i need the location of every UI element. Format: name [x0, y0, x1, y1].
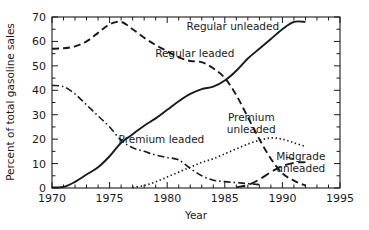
- series-label-line1: Midgrade: [276, 150, 325, 162]
- series-label-premium-unleaded: Premiumunleaded: [227, 111, 276, 135]
- x-axis-title: Year: [184, 209, 208, 221]
- axis-tick-labels: 197019751980198519901995010203040506070: [32, 11, 354, 205]
- x-tick-label: 1985: [211, 192, 239, 205]
- x-tick-label: 1975: [96, 192, 124, 205]
- series-curve-regular-unleaded: [52, 21, 305, 187]
- x-tick-label: 1990: [268, 192, 296, 205]
- series-curve-regular-leaded: [52, 22, 305, 186]
- y-tick-label: 50: [32, 60, 46, 73]
- x-tick-label: 1980: [153, 192, 181, 205]
- x-tick-label: 1995: [326, 192, 354, 205]
- y-tick-label: 0: [39, 182, 46, 195]
- chart-svg: 197019751980198519901995010203040506070 …: [0, 0, 369, 230]
- y-tick-label: 70: [32, 11, 46, 24]
- y-tick-label: 30: [32, 109, 46, 122]
- y-tick-label: 10: [32, 158, 46, 171]
- y-tick-label: 20: [32, 133, 46, 146]
- series-label-line2: unleaded: [276, 162, 325, 174]
- series-label-regular-unleaded: Regular unleaded: [187, 20, 280, 32]
- series-label-line1: Premium: [228, 111, 275, 123]
- series-inline-labels: Regular leadedRegular unleadedPremium le…: [119, 20, 326, 173]
- series-label-midgrade-unleaded: Midgradeunleaded: [276, 150, 325, 174]
- y-tick-label: 60: [32, 35, 46, 48]
- series-label-premium-leaded: Premium leaded: [119, 133, 205, 145]
- series-label-regular-leaded: Regular leaded: [155, 47, 234, 59]
- gasoline-sales-line-chart: 197019751980198519901995010203040506070 …: [0, 0, 369, 230]
- series-label-line2: unleaded: [227, 123, 276, 135]
- y-tick-label: 40: [32, 84, 46, 97]
- data-series-curves: [52, 21, 305, 187]
- y-axis-title: Percent of total gasoline sales: [4, 23, 16, 181]
